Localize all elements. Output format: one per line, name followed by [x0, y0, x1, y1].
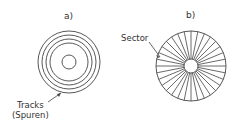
sector-spoke: [157, 59, 184, 64]
sector-spoke: [197, 69, 223, 80]
sector-leader-line: [149, 42, 160, 57]
sector-spoke: [194, 34, 205, 60]
track-ring: [38, 31, 100, 93]
sector-spoke: [178, 72, 189, 98]
sector-spoke: [159, 69, 185, 80]
disk-diagram: a) Tracks (Spuren) b) Sector: [0, 0, 236, 125]
sector-spoke: [192, 32, 197, 59]
panel-a-label: a): [64, 11, 73, 21]
track-ring: [50, 43, 88, 81]
track-ring: [46, 39, 92, 85]
track-ring: [62, 55, 76, 69]
sector-spoke: [198, 59, 225, 64]
panel-a-tracks: a) Tracks (Spuren): [12, 11, 100, 120]
sector-spoke: [178, 34, 189, 60]
sector-spoke: [197, 53, 223, 64]
sector-spoke: [184, 73, 189, 100]
sector-spoke: [184, 32, 189, 59]
panel-b-label: b): [186, 10, 195, 20]
sector-spoke: [157, 67, 184, 72]
sector-spoke: [198, 67, 225, 72]
sector-spoke: [192, 73, 197, 100]
sector-label: Sector: [121, 33, 149, 43]
track-rings: [38, 31, 100, 93]
disk-hub: [184, 59, 198, 73]
sector-spoke: [194, 72, 205, 98]
spuren-label: (Spuren): [12, 110, 49, 120]
tracks-label: Tracks: [16, 100, 44, 110]
sector-spoke: [159, 53, 185, 64]
panel-b-sectors: b) Sector: [121, 10, 226, 101]
